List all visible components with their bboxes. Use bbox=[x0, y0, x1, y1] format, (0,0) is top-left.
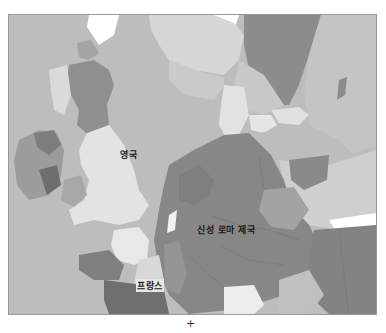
europe-map bbox=[9, 15, 376, 314]
label-england: 영국 bbox=[120, 148, 137, 161]
below-mark: + bbox=[186, 317, 195, 330]
label-france: 프랑스 bbox=[136, 279, 164, 292]
label-holy-roman-empire: 신성 로마 제국 bbox=[197, 223, 255, 236]
map-frame: 영국 신성 로마 제국 프랑스 bbox=[8, 14, 377, 315]
